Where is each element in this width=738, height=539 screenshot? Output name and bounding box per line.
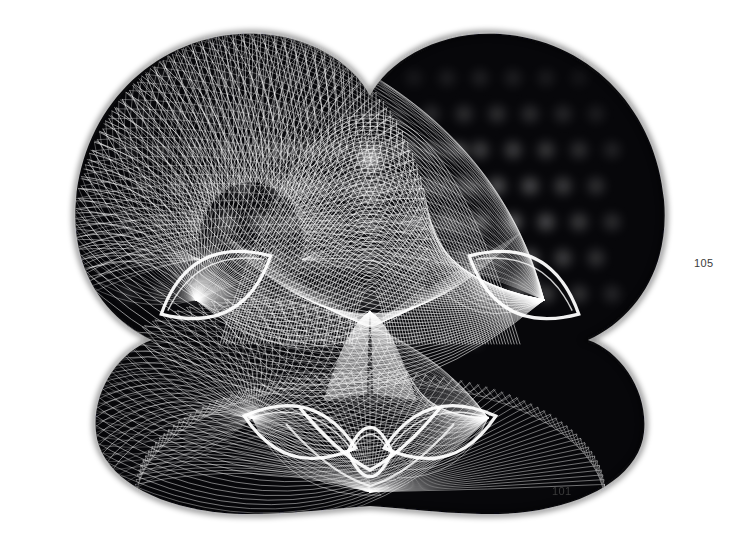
figure-number-105: 105 bbox=[694, 257, 714, 269]
figure-number-101: 101 bbox=[552, 485, 572, 497]
plate-page: 105 101 bbox=[0, 0, 738, 539]
harmonograph-artwork bbox=[0, 0, 738, 539]
